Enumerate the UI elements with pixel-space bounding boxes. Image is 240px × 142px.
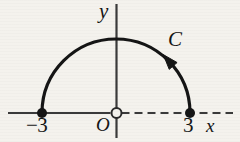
origin-label: O bbox=[96, 115, 110, 134]
origin-open-circle-marker bbox=[112, 108, 122, 118]
semicircle-curve-figure: y x O C −3 3 bbox=[0, 0, 240, 142]
tick-label-minus-three: −3 bbox=[26, 115, 47, 136]
tick-label-three: 3 bbox=[183, 115, 194, 136]
x-axis-label: x bbox=[206, 116, 214, 135]
curve-label-c: C bbox=[168, 29, 182, 50]
y-axis-label: y bbox=[99, 1, 108, 22]
